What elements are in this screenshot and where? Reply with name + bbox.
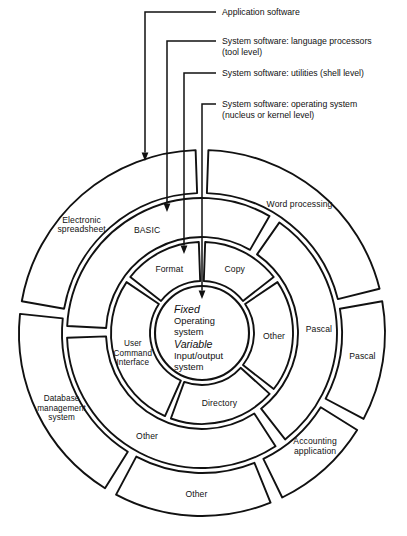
ring-segment-other-ring3[interactable]: Other <box>243 282 293 389</box>
callout-leader-line-application-software <box>145 12 216 153</box>
callout-application-software: Application software <box>142 7 300 161</box>
segment-label-other-ring2: Other <box>136 431 158 441</box>
core-label-line-2: system <box>174 327 204 337</box>
callout-label-utilities-shell-level: System software: utilities (shell level) <box>222 68 364 78</box>
core-label-line-5: system <box>174 362 204 372</box>
layered-software-diagram: ElectronicspreadsheetWord processingPasc… <box>0 0 407 536</box>
segment-label-electronic-spreadsheet: Electronicspreadsheet <box>57 215 106 235</box>
callout-label-application-software: Application software <box>222 7 300 17</box>
operating-system-core[interactable]: FixedOperatingsystemVariableInput/output… <box>155 286 249 380</box>
segment-label-accounting-application: Accountingapplication <box>293 436 337 456</box>
segment-label-directory: Directory <box>202 398 238 408</box>
core-label-line-4: Input/output <box>174 351 224 361</box>
core-label-line-1: Operating <box>174 316 215 326</box>
segment-label-other-ring3: Other <box>263 331 285 341</box>
segment-label-pascal: Pascal <box>306 324 332 334</box>
callout-label-operating-system-kernel: System software: operating system(nucleu… <box>222 99 357 120</box>
segment-label-word-processing: Word processing <box>267 199 333 209</box>
core-layer: FixedOperatingsystemVariableInput/output… <box>155 286 249 380</box>
core-label-line-0: Fixed <box>174 303 201 315</box>
segment-label-other-outer: Other <box>185 489 207 499</box>
segment-label-basic: BASIC <box>134 225 160 235</box>
segment-label-copy: Copy <box>224 264 245 274</box>
diagram-page: ElectronicspreadsheetWord processingPasc… <box>0 0 407 536</box>
segment-label-format: Format <box>155 264 183 274</box>
core-label-line-3: Variable <box>174 338 213 350</box>
segment-label-pascal-outer: Pascal <box>349 351 375 361</box>
callout-label-language-processors: System software: language processors(too… <box>222 36 372 57</box>
